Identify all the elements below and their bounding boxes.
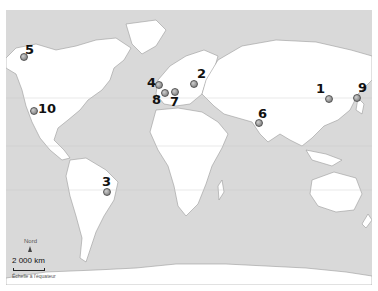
marker-dot-3	[103, 188, 111, 196]
marker-label-9: 9	[358, 81, 367, 94]
scale-caption: Échelle à l'équateur	[12, 273, 56, 279]
marker-dot-9	[353, 94, 361, 102]
marker-label-2: 2	[197, 67, 206, 80]
marker-label-5: 5	[25, 43, 34, 56]
north-arrow-icon	[28, 246, 32, 252]
marker-label-10: 10	[38, 102, 56, 115]
marker-dot-4	[155, 81, 163, 89]
world-map: 12345678910 Nord 2 000 km Échelle à l'éq…	[6, 10, 372, 285]
greenland	[126, 20, 166, 54]
marker-label-6: 6	[258, 107, 267, 120]
scale-label: 2 000 km	[12, 256, 45, 265]
marker-label-3: 3	[102, 175, 111, 188]
asia	[202, 40, 372, 146]
marker-dot-8	[161, 89, 169, 97]
scale-bar	[13, 268, 45, 271]
map-legend: Nord 2 000 km Échelle à l'équateur	[10, 238, 70, 282]
marker-label-4: 4	[147, 76, 156, 89]
australia	[310, 172, 362, 212]
new-zealand	[362, 214, 372, 228]
north-label: Nord	[24, 238, 37, 244]
marker-dot-10	[30, 107, 38, 115]
southeast-asia-islands	[306, 150, 342, 166]
marker-label-7: 7	[170, 95, 179, 108]
africa	[150, 108, 228, 216]
marker-label-8: 8	[152, 93, 161, 106]
marker-dot-1	[325, 95, 333, 103]
marker-dot-2	[190, 80, 198, 88]
marker-label-1: 1	[316, 82, 325, 95]
